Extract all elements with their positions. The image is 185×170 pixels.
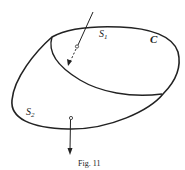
label-s1: S1 xyxy=(99,28,108,41)
surface-diagram: S1 C S2 Fig. 11 xyxy=(0,0,185,170)
figure-caption: Fig. 11 xyxy=(78,159,100,168)
label-s2: S2 xyxy=(26,106,35,119)
label-c: C xyxy=(150,33,158,45)
point-s2 xyxy=(69,116,72,119)
point-s1 xyxy=(75,45,78,48)
normal-arrow-s1-dashed xyxy=(70,49,76,62)
surface-s1-rim xyxy=(51,37,162,95)
normal-arrow-s2 xyxy=(70,120,71,150)
arrowhead-s2-icon xyxy=(68,148,73,155)
